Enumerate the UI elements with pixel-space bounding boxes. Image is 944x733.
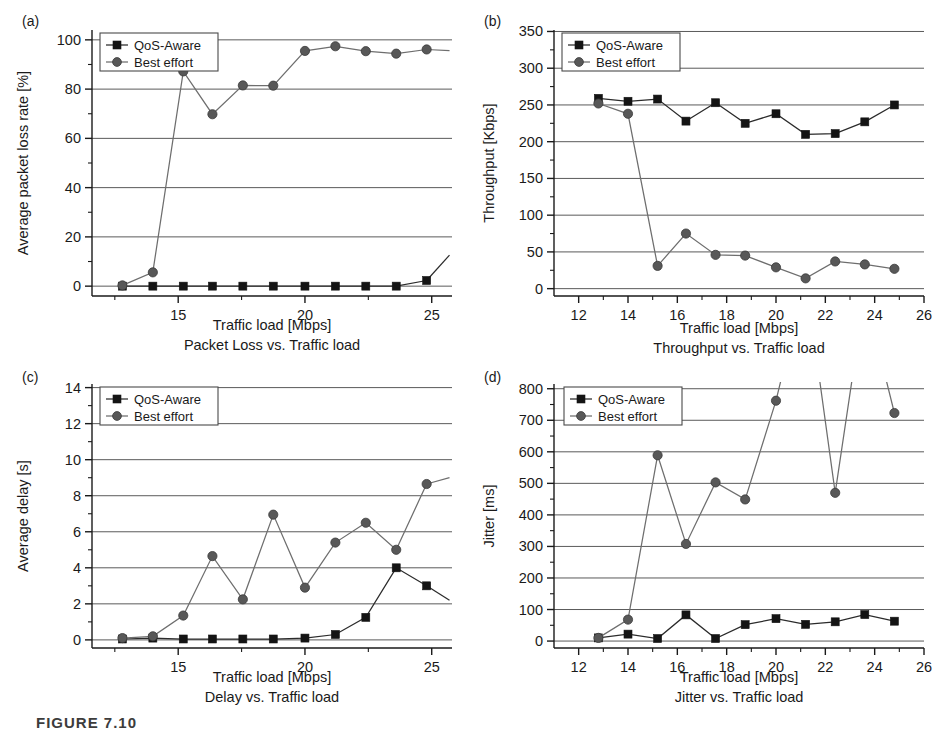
panel-c-xtick-label: 25 — [424, 659, 440, 675]
panel-a-marker-best-effort — [300, 46, 309, 55]
panel-b-marker-best-effort — [741, 251, 750, 260]
panel-d-tag: (d) — [484, 369, 501, 385]
panel-b-legend: QoS-AwareBest effort — [562, 33, 680, 71]
panel-b-tag: (b) — [484, 13, 501, 29]
panel-c-svg: (c)02468101214152025Traffic load [Mbps]A… — [0, 366, 472, 733]
panel-c-legend-marker-qos-aware — [113, 395, 121, 403]
panel-b-xtick-label: 14 — [620, 307, 636, 323]
panel-a-marker-qos-aware — [423, 276, 431, 284]
panel-d-marker-qos-aware — [682, 611, 690, 619]
panel-b-xtick-label: 26 — [916, 307, 932, 323]
panel-d-sub-caption: Jitter vs. Traffic load — [675, 689, 804, 705]
panel-d-marker-qos-aware — [890, 617, 898, 625]
panel-c-legend-marker-best-effort — [113, 412, 122, 421]
panel-b-plot-area — [594, 94, 899, 283]
panel-b-marker-best-effort — [594, 99, 603, 108]
panel-a-legend-marker-best-effort — [113, 58, 122, 67]
panel-d-marker-best-effort — [681, 539, 690, 548]
panel-c-marker-best-effort — [392, 545, 401, 554]
chart-panel-c: (c)02468101214152025Traffic load [Mbps]A… — [0, 366, 472, 733]
panel-d-xtick-label: 24 — [867, 659, 883, 675]
panel-d-marker-qos-aware — [802, 620, 810, 628]
panel-c-marker-qos-aware — [208, 635, 216, 643]
panel-d-xtick-label: 26 — [916, 659, 932, 675]
panel-d-ytick-label: 400 — [519, 507, 543, 523]
panel-c-ytick-label: 8 — [73, 488, 81, 504]
panel-c-marker-best-effort — [148, 632, 157, 641]
panel-b-marker-best-effort — [831, 257, 840, 266]
panel-d-marker-best-effort — [771, 396, 780, 405]
panel-c-legend-label-best-effort: Best effort — [134, 409, 193, 424]
panel-a-svg: (a)020406080100152025Traffic load [Mbps]… — [0, 0, 472, 366]
panel-c-legend-label-qos-aware: QoS-Aware — [134, 392, 201, 407]
panel-b-x-axis-label: Traffic load [Mbps] — [680, 320, 798, 336]
panel-a-plot-area — [118, 42, 450, 290]
panel-c-marker-best-effort — [331, 538, 340, 547]
panel-c-ytick-label: 2 — [73, 596, 81, 612]
panel-c-marker-qos-aware — [423, 582, 431, 590]
panel-d-legend-marker-best-effort — [577, 412, 586, 421]
panel-c-marker-qos-aware — [362, 613, 370, 621]
panel-d-marker-qos-aware — [772, 615, 780, 623]
panel-d-svg: (d)0100200300400500600700800121416182022… — [472, 366, 944, 733]
panel-b-sub-caption: Throughput vs. Traffic load — [653, 340, 824, 356]
panel-d-legend: QoS-AwareBest effort — [564, 387, 682, 425]
panel-c-line-best-effort — [122, 484, 426, 638]
panel-d-xtick-label: 22 — [817, 659, 833, 675]
panel-a-marker-qos-aware — [208, 282, 216, 290]
panel-a-marker-qos-aware — [301, 282, 309, 290]
panel-a-ytick-label: 20 — [65, 229, 81, 245]
panel-d-ytick-label: 0 — [535, 633, 543, 649]
panel-b-xtick-label: 24 — [867, 307, 883, 323]
panel-a-x-axis-label: Traffic load [Mbps] — [213, 317, 331, 333]
panel-a-marker-qos-aware — [239, 282, 247, 290]
panel-b-ytick-label: 250 — [519, 97, 543, 113]
panel-c-marker-best-effort — [238, 595, 247, 604]
panel-d-marker-best-effort — [711, 478, 720, 487]
panel-d-ytick-label: 600 — [519, 444, 543, 460]
chart-panel-b: (b)0501001502002503003501214161820222426… — [472, 0, 944, 366]
panel-c-x-axis-label: Traffic load [Mbps] — [213, 669, 331, 685]
panel-b-marker-qos-aware — [831, 130, 839, 138]
panel-a-marker-best-effort — [118, 281, 127, 290]
panel-c-marker-qos-aware — [392, 564, 400, 572]
panel-b-legend-label-best-effort: Best effort — [596, 55, 655, 70]
panel-c-ytick-label: 12 — [65, 416, 81, 432]
panel-d-marker-best-effort — [623, 615, 632, 624]
panel-a-legend: QoS-AwareBest effort — [100, 33, 218, 71]
panel-b-marker-qos-aware — [741, 119, 749, 127]
panel-a-xtick-label: 25 — [424, 307, 440, 323]
panel-c-xtick-label: 15 — [170, 659, 186, 675]
panel-d-marker-qos-aware — [861, 611, 869, 619]
panel-b-marker-qos-aware — [802, 130, 810, 138]
figure-caption: FIGURE 7.10 — [36, 714, 137, 733]
panel-a-tag: (a) — [22, 13, 39, 29]
panel-a-marker-best-effort — [208, 110, 217, 119]
panel-a-ytick-label: 60 — [65, 130, 81, 146]
panel-d-ytick-label: 300 — [519, 538, 543, 554]
panel-b-marker-best-effort — [860, 260, 869, 269]
panel-d-marker-qos-aware — [624, 630, 632, 638]
panel-a-marker-qos-aware — [179, 282, 187, 290]
panel-d-marker-best-effort — [831, 488, 840, 497]
panel-a-marker-best-effort — [392, 49, 401, 58]
panel-b-ytick-label: 100 — [519, 207, 543, 223]
panel-a-marker-best-effort — [269, 81, 278, 90]
panel-d-legend-label-qos-aware: QoS-Aware — [598, 392, 665, 407]
panel-b-marker-best-effort — [890, 264, 899, 273]
panel-a-marker-qos-aware — [331, 282, 339, 290]
panel-a-legend-label-best-effort: Best effort — [134, 55, 193, 70]
panel-c-marker-best-effort — [208, 551, 217, 560]
panel-b-marker-best-effort — [653, 261, 662, 270]
figure-grid: (a)020406080100152025Traffic load [Mbps]… — [0, 0, 944, 733]
panel-c-sub-caption: Delay vs. Traffic load — [205, 689, 339, 705]
panel-c-marker-qos-aware — [239, 635, 247, 643]
panel-b-line-qos-aware — [598, 98, 894, 134]
panel-b-marker-qos-aware — [624, 97, 632, 105]
panel-a-marker-best-effort — [361, 47, 370, 56]
panel-a-ytick-label: 40 — [65, 180, 81, 196]
panel-b-marker-qos-aware — [861, 118, 869, 126]
panel-a-marker-qos-aware — [362, 282, 370, 290]
panel-b-xtick-label: 22 — [817, 307, 833, 323]
panel-b-xtick-label: 12 — [571, 307, 587, 323]
